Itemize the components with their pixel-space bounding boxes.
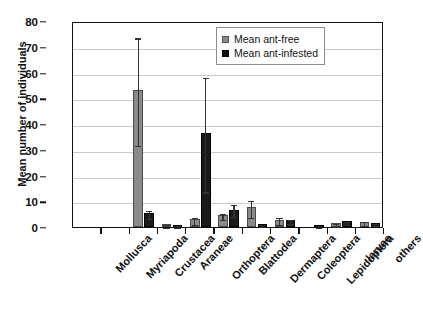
chart-legend: Mean ant-free Mean ant-infested [216,27,325,65]
y-tick-mark [40,47,46,48]
y-tick-label: 20 [25,171,38,183]
y-tick-label: 60 [25,68,38,80]
y-tick-label: 80 [25,16,38,28]
legend-label-ant-free: Mean ant-free [234,33,299,45]
y-tick-mark [40,124,46,125]
y-tick-label: 50 [25,93,38,105]
y-tick-mark [40,21,46,22]
error-bar-cap-upper [372,224,378,225]
y-axis-ticks: 01020304050607080 [0,22,72,228]
legend-swatch-icon-ant-infested [222,50,229,57]
y-tick-mark [40,73,46,74]
y-tick-mark [40,176,46,177]
y-tick-mark [40,150,46,151]
y-tick-mark [40,202,46,203]
y-tick-label: 70 [25,42,38,54]
legend-swatch-icon-ant-free [222,36,229,43]
error-bar-cap-lower [361,226,367,227]
y-tick-mark [40,99,46,100]
x-axis-labels: MolluscaMyriapodaCrustaceaAraneaeOrthopt… [0,228,401,314]
error-bar-cap-upper [361,222,367,223]
x-tick-label-others: others [392,232,423,265]
legend-label-ant-infested: Mean ant-infested [234,47,318,59]
legend-item-ant-free: Mean ant-free [222,32,318,46]
y-tick-label: 10 [25,196,38,208]
y-tick-label: 40 [25,119,38,131]
y-tick-label: 30 [25,145,38,157]
legend-item-ant-infested: Mean ant-infested [222,46,318,60]
